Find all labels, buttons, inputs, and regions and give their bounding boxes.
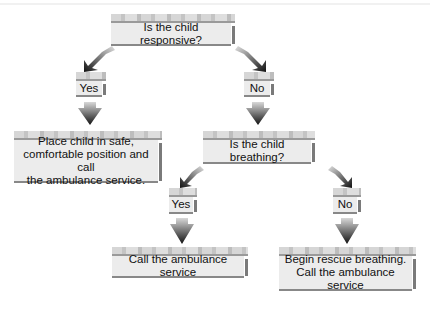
arrow-no1-down-icon [246,102,270,125]
flowchart: Is the child responsive? Yes No Place ch… [0,0,430,310]
question-child-responsive: Is the child responsive? [111,14,235,48]
arrow-yes1-down-icon [78,102,102,125]
action-call-ambulance: Call the ambulance service [112,247,248,280]
answer-yes-responsive: Yes [76,72,106,99]
arrow-no2-down-icon [335,218,359,244]
arrow-yes2-down-icon [170,218,194,244]
arrow-q2-no-icon [328,166,352,188]
arrow-q2-yes-icon [180,166,204,188]
arrow-q1-no-icon [235,46,266,72]
answer-no-responsive: No [244,72,274,99]
action-safe-position: Place child in safe, comfortable positio… [14,131,162,185]
question-child-breathing: Is the child breathing? [203,131,315,166]
answer-yes-breathing: Yes [169,188,197,216]
action-rescue-breathing: Begin rescue breathing. Call the ambulan… [279,247,416,293]
arrow-q1-yes-icon [84,46,115,72]
answer-no-breathing: No [333,188,361,216]
